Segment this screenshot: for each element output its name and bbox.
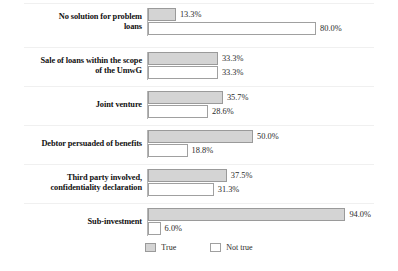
chart-group-row: Joint venture 35.7% 28.6% — [0, 91, 398, 119]
bar-not-true — [148, 66, 218, 79]
grouped-bar-chart: No solution for problem loans 13.3% 80.0… — [0, 0, 398, 271]
group-separator — [24, 3, 374, 4]
category-label-line: of the UmwG — [0, 66, 142, 77]
bar-true — [148, 169, 227, 182]
plot-area: No solution for problem loans 13.3% 80.0… — [0, 0, 398, 238]
category-label-line: No solution for problem — [0, 12, 142, 23]
bars-column: 50.0% 18.8% — [147, 130, 398, 158]
bar-value-not-true: 31.3% — [214, 185, 240, 194]
chart-group-row: Third party involved, confidentiality de… — [0, 169, 398, 197]
bar-line-true: 33.3% — [148, 52, 398, 65]
group-separator — [24, 86, 374, 87]
bar-line-not-true: 31.3% — [148, 183, 398, 196]
bars-column: 94.0% 6.0% — [147, 208, 398, 236]
bar-line-true: 13.3% — [148, 8, 398, 21]
bar-not-true — [148, 105, 208, 118]
bar-value-true: 13.3% — [176, 10, 202, 19]
category-label-line: Sub-investment — [0, 217, 142, 228]
bar-value-true: 35.7% — [223, 93, 249, 102]
bar-line-not-true: 18.8% — [148, 144, 398, 157]
bar-value-not-true: 33.3% — [218, 68, 244, 77]
bar-not-true — [148, 222, 161, 235]
category-label: Debtor persuaded of benefits — [0, 139, 147, 150]
chart-legend: True Not true — [0, 243, 398, 252]
chart-group-row: Debtor persuaded of benefits 50.0% 18.8% — [0, 130, 398, 158]
legend-label: Not true — [226, 243, 252, 252]
category-label-line: Debtor persuaded of benefits — [0, 139, 142, 150]
group-separator — [24, 164, 374, 165]
bar-line-true: 50.0% — [148, 130, 398, 143]
bar-value-not-true: 28.6% — [208, 107, 234, 116]
bar-true — [148, 52, 218, 65]
bar-value-not-true: 18.8% — [188, 146, 214, 155]
group-separator — [24, 203, 374, 204]
bar-value-true: 94.0% — [345, 210, 371, 219]
bars-column: 37.5% 31.3% — [147, 169, 398, 197]
bar-line-not-true: 28.6% — [148, 105, 398, 118]
chart-group-row: No solution for problem loans 13.3% 80.0… — [0, 8, 398, 36]
category-label-line: loans — [0, 22, 142, 33]
bars-column: 13.3% 80.0% — [147, 8, 398, 36]
bar-true — [148, 8, 176, 21]
legend-swatch-icon — [210, 243, 221, 252]
bar-true — [148, 130, 253, 143]
bar-line-not-true: 33.3% — [148, 66, 398, 79]
bar-line-true: 37.5% — [148, 169, 398, 182]
bar-not-true — [148, 144, 188, 157]
legend-label: True — [161, 243, 176, 252]
category-label-line: Third party involved, — [0, 173, 142, 184]
bar-line-true: 94.0% — [148, 208, 398, 221]
bar-value-true: 33.3% — [218, 54, 244, 63]
bar-true — [148, 208, 345, 221]
chart-group-row: Sale of loans within the scope of the Um… — [0, 52, 398, 80]
chart-group-row: Sub-investment 94.0% 6.0% — [0, 208, 398, 236]
bar-line-true: 35.7% — [148, 91, 398, 104]
group-separator — [24, 125, 374, 126]
category-label: Sale of loans within the scope of the Um… — [0, 56, 147, 77]
bars-column: 35.7% 28.6% — [147, 91, 398, 119]
category-label: No solution for problem loans — [0, 12, 147, 33]
legend-item-true: True — [145, 243, 176, 252]
bar-line-not-true: 80.0% — [148, 22, 398, 35]
category-label-line: Joint venture — [0, 100, 142, 111]
bar-value-true: 37.5% — [227, 171, 253, 180]
bar-line-not-true: 6.0% — [148, 222, 398, 235]
legend-item-not-true: Not true — [210, 243, 252, 252]
bar-value-true: 50.0% — [253, 132, 279, 141]
group-separator — [24, 47, 374, 48]
category-label: Sub-investment — [0, 217, 147, 228]
category-label-line: Sale of loans within the scope — [0, 56, 142, 67]
bar-not-true — [148, 183, 214, 196]
category-label: Joint venture — [0, 100, 147, 111]
category-label-line: confidentiality declaration — [0, 183, 142, 194]
bar-value-not-true: 80.0% — [316, 24, 342, 33]
bar-not-true — [148, 22, 316, 35]
legend-swatch-icon — [145, 243, 156, 252]
bar-true — [148, 91, 223, 104]
bars-column: 33.3% 33.3% — [147, 52, 398, 80]
bar-value-not-true: 6.0% — [161, 224, 182, 233]
category-label: Third party involved, confidentiality de… — [0, 173, 147, 194]
